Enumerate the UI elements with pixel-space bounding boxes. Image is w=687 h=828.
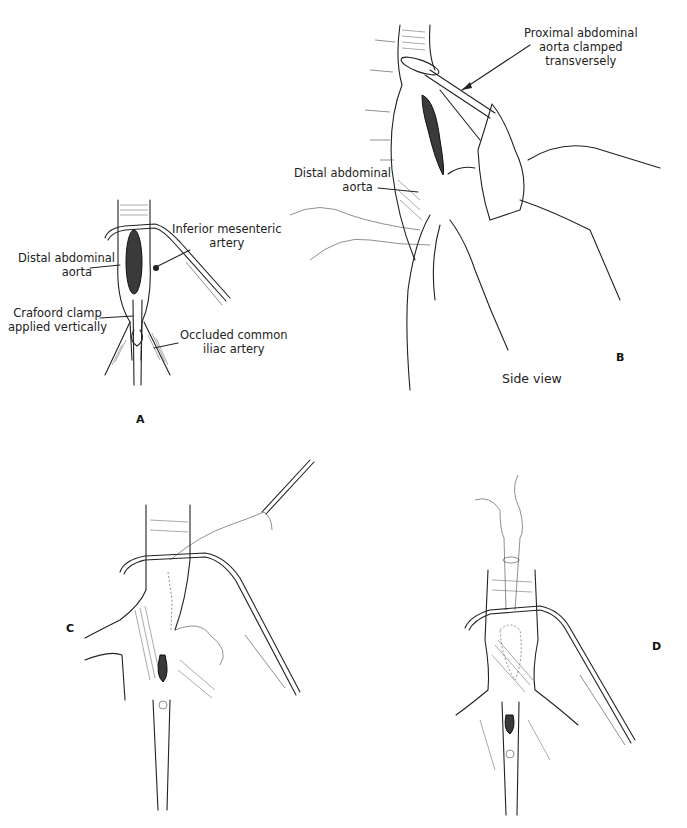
label-line: Distal abdominal — [294, 166, 391, 180]
panel-letter-b: B — [616, 351, 624, 364]
label-line: Proximal abdominal — [524, 26, 638, 40]
label-inferior-mesenteric: Inferior mesenteric artery — [172, 222, 282, 250]
label-line: Occluded common — [180, 328, 288, 342]
label-line: aorta clamped — [524, 40, 638, 54]
panel-caption-side-view: Side view — [502, 371, 562, 386]
label-distal-aorta-a: Distal abdominal aorta — [18, 251, 106, 279]
label-line: aorta — [294, 180, 391, 194]
panel-letter-c: C — [66, 622, 74, 635]
label-line: Distal abdominal — [18, 251, 106, 265]
panel-d: D — [420, 470, 687, 828]
panel-c-illustration — [0, 460, 340, 828]
label-occluded-iliac: Occluded common iliac artery — [180, 328, 288, 356]
label-line: aorta — [18, 265, 92, 279]
panel-a-illustration — [0, 0, 290, 440]
label-line: transversely — [524, 54, 638, 68]
label-crafoord-clamp: Crafoord clamp applied vertically — [8, 306, 107, 334]
panel-d-illustration — [420, 470, 687, 828]
label-proximal-aorta: Proximal abdominal aorta clamped transve… — [524, 26, 638, 68]
panel-a: Distal abdominal aorta Inferior mesenter… — [0, 0, 290, 440]
label-line: applied vertically — [8, 320, 107, 334]
label-line: artery — [172, 236, 282, 250]
panel-letter-a: A — [136, 413, 145, 426]
label-line: Inferior mesenteric — [172, 222, 282, 236]
label-line: Crafoord clamp — [8, 306, 107, 320]
label-line: iliac artery — [180, 342, 288, 356]
panel-b: Proximal abdominal aorta clamped transve… — [290, 0, 687, 420]
panel-c: C — [0, 460, 340, 828]
panel-letter-d: D — [652, 640, 661, 653]
label-distal-aorta-b: Distal abdominal aorta — [294, 166, 391, 194]
